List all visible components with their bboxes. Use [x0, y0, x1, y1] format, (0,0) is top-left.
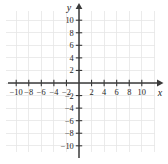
x-tick-label: −8: [24, 88, 33, 97]
y-tick-label: −2: [65, 92, 74, 101]
x-axis-arrow-icon: [157, 80, 164, 87]
x-tick-label: 10: [138, 88, 146, 97]
coordinate-grid-figure: −10−8−6−4−2246810108642−2−4−6−8−10 yx: [0, 0, 168, 164]
x-tick-label: −4: [49, 88, 59, 97]
y-tick-label: 10: [65, 16, 73, 25]
y-tick-label: −4: [65, 104, 75, 113]
y-axis-arrow-icon: [76, 3, 83, 9]
y-tick-label: −6: [65, 117, 74, 126]
x-tick-label: −6: [37, 88, 46, 97]
coordinate-plane-svg: −10−8−6−4−2246810108642−2−4−6−8−10 yx: [0, 0, 168, 164]
y-tick-label: −8: [65, 129, 74, 138]
y-tick-label: −10: [61, 142, 74, 151]
x-tick-label: −10: [10, 88, 23, 97]
x-tick-label: 8: [127, 88, 131, 97]
y-tick-label: 2: [70, 66, 74, 75]
x-axis-name-label: x: [157, 87, 163, 98]
y-tick-label: 4: [70, 54, 75, 63]
x-tick-label: 2: [89, 88, 93, 97]
x-tick-label: 6: [115, 88, 119, 97]
y-tick-label: 6: [70, 41, 74, 50]
y-tick-label: 8: [70, 29, 74, 38]
axis-lines: [8, 3, 164, 158]
y-axis-name-label: y: [66, 2, 72, 13]
x-tick-label: 4: [102, 88, 107, 97]
